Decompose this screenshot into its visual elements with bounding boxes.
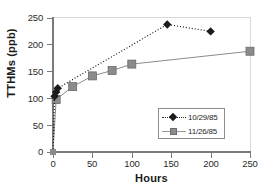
chart-figure: 250 200 150 100 50 0 0 50 100 150 200 25…	[0, 0, 267, 189]
square-marker-icon	[162, 126, 186, 137]
series-canvas	[0, 0, 267, 189]
data-point	[50, 149, 56, 155]
chart-legend: 10/29/85 11/26/85	[158, 108, 225, 139]
legend-entry-1: 11/26/85	[162, 125, 217, 138]
legend-label-0: 10/29/85	[188, 113, 218, 122]
data-point	[88, 72, 96, 80]
data-point	[206, 27, 214, 35]
legend-label-1: 11/26/85	[188, 127, 217, 136]
data-point	[69, 83, 77, 91]
legend-entry-0: 10/29/85	[162, 111, 218, 124]
data-point	[163, 20, 171, 28]
data-point	[108, 67, 116, 75]
data-point	[246, 47, 254, 55]
diamond-marker-icon	[162, 112, 186, 123]
data-point	[128, 60, 136, 68]
